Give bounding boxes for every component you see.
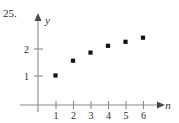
x-tick-label-5: 5 (124, 110, 129, 121)
x-axis-arrow-icon (157, 102, 165, 109)
data-point-6 (141, 36, 145, 40)
x-tick-label-6: 6 (141, 110, 146, 121)
y-tick-label-2: 2 (24, 44, 29, 55)
x-tick-label-3: 3 (89, 110, 94, 121)
figure-container: 25. 1 2 3 4 5 6 1 2 (0, 0, 179, 123)
data-point-series (53, 36, 145, 78)
data-point-1 (53, 73, 57, 77)
data-point-2 (71, 59, 75, 63)
y-tick-label-1: 1 (24, 71, 29, 82)
x-tick-label-4: 4 (106, 110, 111, 121)
scatter-plot: 1 2 3 4 5 6 1 2 y n (0, 0, 179, 123)
data-point-3 (88, 51, 92, 55)
x-tick-label-2: 2 (71, 110, 76, 121)
y-axis-arrow-icon (35, 13, 42, 21)
x-tick-label-1: 1 (54, 110, 59, 121)
y-axis-label: y (44, 14, 50, 26)
data-point-4 (106, 44, 110, 48)
data-point-5 (123, 40, 127, 44)
x-axis-label: n (165, 99, 171, 111)
